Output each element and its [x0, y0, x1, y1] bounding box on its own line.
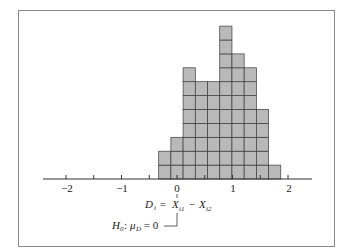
- tick-label-neg2: −2: [61, 182, 73, 194]
- histogram-cell: [220, 82, 232, 96]
- histogram-cell: [244, 151, 256, 165]
- histogram-cell: [183, 68, 195, 82]
- histogram-cell: [208, 82, 220, 96]
- histogram-bars: [159, 26, 281, 179]
- formula-x1-sub: i1: [179, 205, 184, 213]
- histogram-cell: [220, 151, 232, 165]
- histogram-cell: [244, 82, 256, 96]
- h0-bracket: [164, 213, 177, 226]
- histogram-cell: [220, 123, 232, 137]
- histogram-cell: [183, 96, 195, 110]
- tick-label-neg1: −1: [116, 182, 128, 194]
- histogram-cell: [195, 82, 207, 96]
- formula-eq: =: [157, 198, 169, 210]
- formula-minus: −: [186, 198, 198, 210]
- histogram-cell: [244, 137, 256, 151]
- histogram-cell: [244, 68, 256, 82]
- histogram-cell: [256, 123, 268, 137]
- histogram-cell: [256, 110, 268, 124]
- histogram-cell: [220, 54, 232, 68]
- h0-mu: μ: [129, 219, 136, 231]
- histogram-cell: [256, 165, 268, 179]
- tick-label-1: 1: [230, 182, 236, 194]
- histogram-cell: [220, 137, 232, 151]
- histogram-cell: [220, 110, 232, 124]
- histogram-cell: [232, 110, 244, 124]
- histogram-cell: [244, 110, 256, 124]
- histogram-cell: [220, 40, 232, 54]
- histogram-cell: [232, 151, 244, 165]
- histogram-cell: [208, 96, 220, 110]
- histogram-cell: [220, 26, 232, 40]
- histogram-cell: [183, 110, 195, 124]
- histogram-cell: [208, 151, 220, 165]
- histogram-cell: [220, 165, 232, 179]
- histogram-cell: [195, 151, 207, 165]
- formula-x2-sub: i2: [206, 205, 212, 213]
- histogram-cell: [195, 96, 207, 110]
- histogram-cell: [220, 68, 232, 82]
- histogram-cell: [195, 110, 207, 124]
- h0-eq0: = 0: [141, 219, 159, 231]
- histogram-cell: [208, 123, 220, 137]
- histogram-cell: [195, 137, 207, 151]
- histogram-cell: [208, 165, 220, 179]
- histogram-cell: [256, 137, 268, 151]
- histogram-cell: [269, 165, 281, 179]
- histogram-cell: [232, 96, 244, 110]
- histogram-cell: [244, 96, 256, 110]
- formula-d: D: [144, 198, 153, 210]
- histogram-cell: [220, 96, 232, 110]
- histogram-cell: [183, 165, 195, 179]
- histogram-cell: [208, 137, 220, 151]
- histogram-cell: [256, 151, 268, 165]
- histogram-cell: [159, 151, 171, 165]
- null-hypothesis-label: H 0 : μ D = 0: [111, 219, 159, 233]
- histogram-cell: [171, 151, 183, 165]
- tick-label-2: 2: [286, 182, 292, 194]
- histogram-cell: [244, 123, 256, 137]
- histogram-cell: [159, 165, 171, 179]
- histogram-cell: [183, 137, 195, 151]
- histogram-cell: [208, 110, 220, 124]
- histogram-cell: [232, 68, 244, 82]
- histogram-cell: [183, 82, 195, 96]
- histogram-cell: [171, 137, 183, 151]
- formula-d-sub: i: [154, 204, 156, 212]
- histogram-cell: [244, 165, 256, 179]
- histogram-cell: [232, 123, 244, 137]
- histogram-cell: [232, 137, 244, 151]
- h0-colon: :: [124, 219, 130, 231]
- histogram-cell: [232, 54, 244, 68]
- difference-formula: D i = X i1 − X i2: [144, 198, 212, 213]
- histogram-chart: −2 −1 0 1 2 D i = X i1 − X i2 H 0 : μ D …: [0, 0, 348, 252]
- histogram-cell: [183, 123, 195, 137]
- histogram-cell: [195, 165, 207, 179]
- histogram-cell: [232, 165, 244, 179]
- histogram-cell: [183, 151, 195, 165]
- tick-label-0: 0: [174, 182, 180, 194]
- histogram-cell: [232, 82, 244, 96]
- histogram-cell: [195, 123, 207, 137]
